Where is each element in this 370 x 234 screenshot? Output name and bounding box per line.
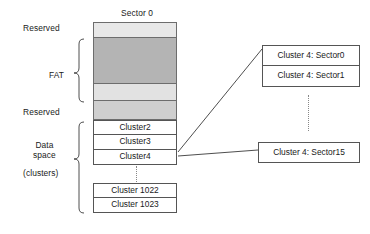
connector-line-upper	[178, 49, 262, 152]
region-fat	[93, 37, 177, 84]
cluster-row: Cluster 1022	[93, 183, 177, 198]
label-fat: FAT	[49, 70, 64, 80]
diagram-overlay	[0, 0, 370, 234]
connector-line-lower	[178, 150, 258, 156]
cluster-ellipsis-dots	[136, 166, 137, 182]
brace-data-space	[74, 122, 84, 213]
region-reserved-top	[93, 22, 177, 37]
region-reserved-bottom-lower	[93, 101, 177, 120]
sector-0-title: Sector 0	[113, 8, 161, 18]
cluster-row: Cluster2	[93, 120, 177, 135]
sector-box: Cluster 4: Sector0	[262, 45, 360, 66]
label-data-space-line2: space	[33, 150, 56, 160]
brace-fat	[74, 39, 84, 102]
region-reserved-bottom	[93, 84, 177, 101]
label-reserved-bottom: Reserved	[23, 107, 60, 117]
label-data-space-line1: Data	[35, 140, 53, 150]
label-reserved-top: Reserved	[23, 23, 60, 33]
cluster-row: Cluster 1023	[93, 198, 177, 213]
cluster-row: Cluster4	[93, 150, 177, 165]
fat-filesystem-diagram: Sector 0 Cluster2 Cluster3 Cluster4 Clus…	[0, 0, 370, 234]
label-clusters: (clusters)	[23, 168, 58, 178]
sector-box: Cluster 4: Sector1	[262, 66, 360, 87]
label-data-space: Data space	[33, 140, 56, 160]
cluster-row: Cluster3	[93, 135, 177, 150]
sector-ellipsis-dots	[308, 95, 309, 131]
sector-box: Cluster 4: Sector15	[258, 142, 360, 163]
